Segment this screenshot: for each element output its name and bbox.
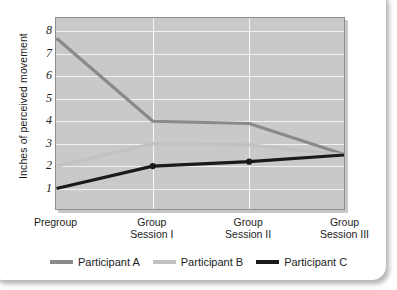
plot-area (55, 17, 345, 210)
series-layer (56, 18, 345, 210)
y-tick-label: 4 (36, 114, 52, 126)
legend-swatch (153, 260, 176, 264)
y-tick-label: 6 (36, 69, 52, 81)
series-marker (246, 159, 252, 165)
series-line (57, 38, 346, 155)
y-axis-title: Inches of perceived movement (17, 21, 29, 191)
legend-item: Participant A (50, 256, 140, 268)
x-tick-label: GroupSession II (193, 216, 303, 240)
legend-swatch (256, 260, 279, 264)
legend-item: Participant B (153, 256, 243, 268)
y-tick-label: 8 (36, 24, 52, 36)
y-tick-label: 1 (36, 182, 52, 194)
line-chart: 12345678 Inches of perceived movement Pr… (0, 0, 397, 290)
y-axis-ticks: 12345678 (34, 0, 52, 290)
y-tick-label: 7 (36, 47, 52, 59)
legend-item: Participant C (256, 256, 347, 268)
series-marker (150, 163, 156, 169)
legend-swatch (50, 260, 73, 264)
legend-label: Participant A (78, 256, 140, 268)
legend-label: Participant B (181, 256, 243, 268)
chart-legend: Participant AParticipant BParticipant C (50, 256, 347, 268)
x-tick-label: Pregroup (1, 216, 111, 228)
series-line (57, 155, 346, 189)
x-tick-label: GroupSession III (290, 216, 397, 240)
legend-label: Participant C (284, 256, 347, 268)
x-tick-label: GroupSession I (97, 216, 207, 240)
y-tick-label: 2 (36, 159, 52, 171)
y-tick-label: 5 (36, 92, 52, 104)
y-tick-label: 3 (36, 137, 52, 149)
